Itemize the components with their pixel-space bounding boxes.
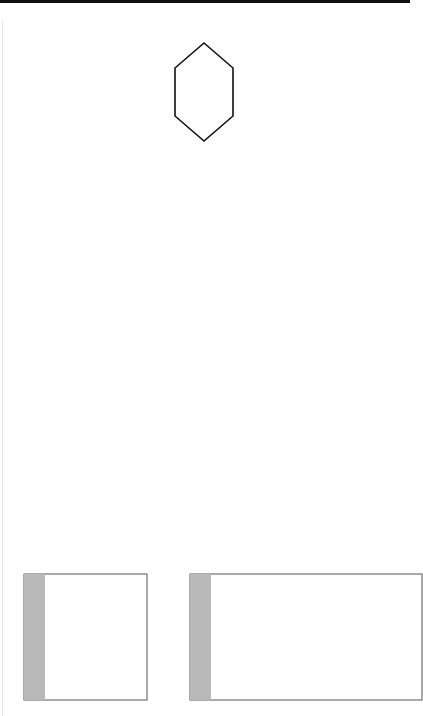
decisions-box <box>190 574 422 700</box>
node-contribution-margin <box>175 43 233 141</box>
decisions-panel <box>190 574 422 700</box>
hexagon-shape <box>175 43 233 141</box>
contribution-margin-driver-tree <box>0 0 423 716</box>
scenarios-header-band <box>24 574 45 700</box>
scenarios-panel <box>24 574 147 700</box>
decisions-header-band <box>190 574 211 700</box>
